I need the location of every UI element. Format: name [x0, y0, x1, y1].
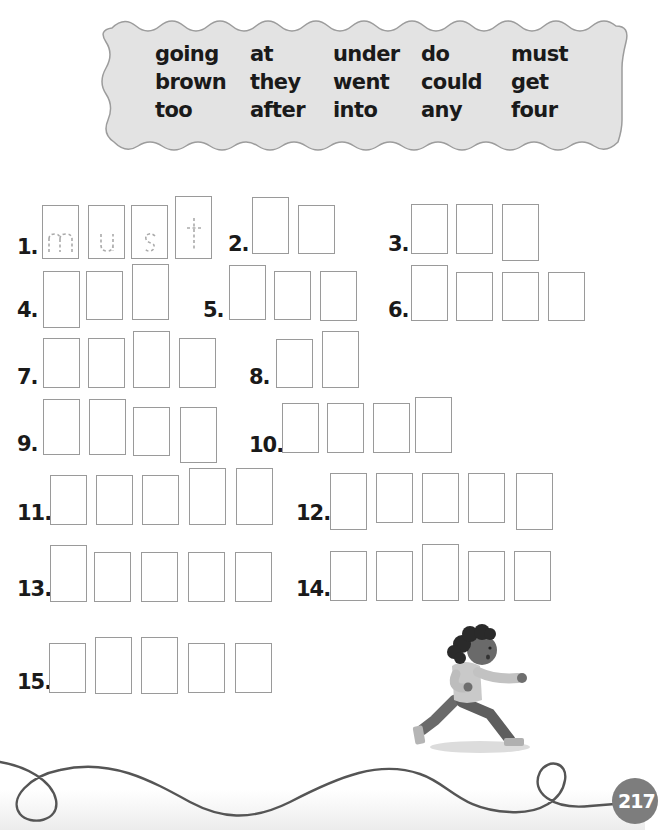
page-number-badge: 217 — [612, 778, 658, 824]
letter-box[interactable] — [50, 475, 87, 525]
letter-box[interactable] — [189, 468, 226, 525]
letter-box[interactable] — [43, 338, 80, 388]
letter-box[interactable] — [142, 475, 179, 525]
letter-box[interactable] — [94, 552, 131, 602]
letter-box[interactable] — [468, 473, 505, 523]
traced-letter — [176, 216, 211, 252]
letter-box[interactable] — [373, 403, 410, 453]
exercise-number: 3. — [388, 233, 409, 255]
letter-box[interactable] — [516, 473, 553, 530]
letter-box[interactable] — [49, 643, 86, 693]
exercise-number: 8. — [249, 366, 270, 388]
letter-box[interactable] — [88, 338, 125, 388]
exercise-number: 7. — [17, 366, 38, 388]
letter-box[interactable] — [179, 338, 216, 388]
letter-box[interactable] — [456, 204, 493, 254]
letter-box[interactable] — [456, 272, 493, 321]
letter-box[interactable] — [131, 205, 168, 259]
letter-box[interactable] — [411, 265, 448, 321]
word-bank-word: going — [155, 43, 219, 65]
letter-box[interactable] — [88, 205, 125, 259]
letter-box[interactable] — [415, 397, 452, 453]
letter-box[interactable] — [132, 264, 169, 320]
word-bank-banner: going brown too at they after under went… — [100, 12, 632, 152]
letter-box[interactable] — [96, 475, 133, 525]
letter-box[interactable] — [514, 551, 551, 601]
letter-box[interactable] — [376, 551, 413, 601]
exercise-number: 13. — [17, 578, 51, 600]
letter-box[interactable] — [276, 339, 313, 388]
traced-letter — [89, 230, 124, 252]
exercise-number: 12. — [296, 502, 330, 524]
letter-box[interactable] — [50, 545, 87, 602]
letter-box[interactable] — [43, 271, 80, 328]
letter-box[interactable] — [141, 552, 178, 602]
exercise-number: 5. — [203, 299, 224, 321]
word-bank-word: get — [511, 71, 549, 93]
exercise-number: 15. — [17, 671, 51, 693]
letter-box[interactable] — [468, 551, 505, 601]
letter-box[interactable] — [252, 197, 289, 254]
letter-box[interactable] — [95, 637, 132, 694]
letter-box[interactable] — [180, 407, 217, 463]
word-bank-word: at — [250, 43, 273, 65]
letter-box[interactable] — [86, 271, 123, 320]
letter-box[interactable] — [502, 204, 539, 261]
letter-box[interactable] — [188, 552, 225, 602]
running-girl-icon — [400, 622, 535, 757]
letter-box[interactable] — [330, 551, 367, 601]
word-bank-word: brown — [155, 71, 226, 93]
letter-box[interactable] — [330, 473, 367, 530]
letter-box[interactable] — [42, 205, 79, 259]
letter-box[interactable] — [298, 205, 335, 254]
word-bank-word: under — [333, 43, 400, 65]
exercise-number: 1. — [17, 236, 38, 258]
letter-box[interactable] — [236, 468, 273, 525]
word-bank-word: four — [511, 99, 557, 121]
letter-box[interactable] — [502, 272, 539, 321]
word-bank-word: could — [421, 71, 482, 93]
word-bank-word: into — [333, 99, 377, 121]
letter-box[interactable] — [422, 544, 459, 601]
letter-box[interactable] — [188, 643, 225, 693]
traced-letter — [132, 230, 167, 252]
letter-box[interactable] — [229, 265, 266, 320]
exercise-number: 14. — [296, 578, 330, 600]
letter-box[interactable] — [320, 271, 357, 321]
letter-box[interactable] — [422, 473, 459, 523]
letter-box[interactable] — [89, 399, 126, 455]
traced-letter — [43, 230, 78, 252]
letter-box[interactable] — [548, 272, 585, 321]
letter-box[interactable] — [235, 552, 272, 602]
exercise-number: 4. — [17, 299, 38, 321]
letter-box[interactable] — [141, 637, 178, 694]
letter-box[interactable] — [376, 473, 413, 523]
word-bank-word: do — [421, 43, 449, 65]
exercise-number: 11. — [17, 502, 51, 524]
letter-box[interactable] — [322, 331, 359, 388]
word-bank-word: went — [333, 71, 389, 93]
letter-box[interactable] — [133, 331, 170, 388]
decorative-curly-line — [0, 740, 645, 830]
letter-box[interactable] — [411, 204, 448, 254]
word-bank-word: after — [250, 99, 305, 121]
exercise-number: 9. — [17, 433, 38, 455]
letter-box[interactable] — [327, 403, 364, 453]
letter-box[interactable] — [133, 407, 170, 456]
letter-box[interactable] — [175, 196, 212, 259]
word-bank-word: they — [250, 71, 301, 93]
word-bank-word: must — [511, 43, 568, 65]
letter-box[interactable] — [43, 399, 80, 455]
exercise-number: 2. — [228, 233, 249, 255]
letter-box[interactable] — [235, 643, 272, 693]
word-bank-word: any — [421, 99, 462, 121]
word-bank-word: too — [155, 99, 192, 121]
exercise-number: 10. — [249, 434, 283, 456]
exercise-number: 6. — [388, 299, 409, 321]
letter-box[interactable] — [282, 403, 319, 453]
letter-box[interactable] — [274, 271, 311, 320]
